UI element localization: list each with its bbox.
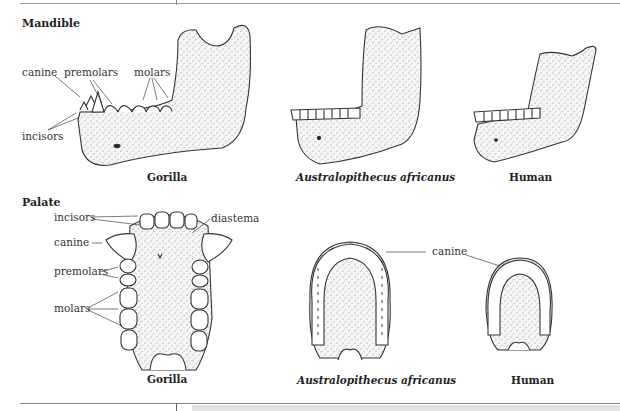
label-incisors: incisors <box>22 130 63 142</box>
label-palate-canine-hominin: canine <box>432 245 467 257</box>
bottom-page-band <box>192 405 620 411</box>
gorilla-mandible <box>78 25 251 165</box>
human-palate <box>486 258 552 350</box>
caption-human-palate: Human <box>511 374 554 386</box>
label-palate-incisors: incisors <box>54 211 95 223</box>
label-palate-molars: molars <box>54 302 90 314</box>
label-premolars: premolars <box>64 66 118 78</box>
gorilla-palate <box>106 212 232 370</box>
caption-gorilla-palate: Gorilla <box>147 373 187 385</box>
label-palate-canine: canine <box>54 236 89 248</box>
australopithecus-palate <box>310 242 391 360</box>
bottom-rule <box>20 403 620 404</box>
label-canine: canine <box>22 66 57 78</box>
label-molars: molars <box>134 66 170 78</box>
caption-australopithecus-mandible: Australopithecus africanus <box>296 171 455 183</box>
caption-australopithecus-palate: Australopithecus africanus <box>297 374 456 386</box>
bottom-rule-tick <box>176 403 177 411</box>
caption-human-mandible: Human <box>509 171 552 183</box>
jaw-illustrations <box>0 0 620 411</box>
human-mandible <box>474 46 596 162</box>
section-title-mandible: Mandible <box>22 17 80 30</box>
label-palate-diastema: diastema <box>211 212 259 224</box>
section-title-palate: Palate <box>22 196 61 209</box>
caption-gorilla-mandible: Gorilla <box>147 171 187 183</box>
label-palate-premolars: premolars <box>54 265 108 277</box>
australopithecus-mandible <box>291 27 421 164</box>
